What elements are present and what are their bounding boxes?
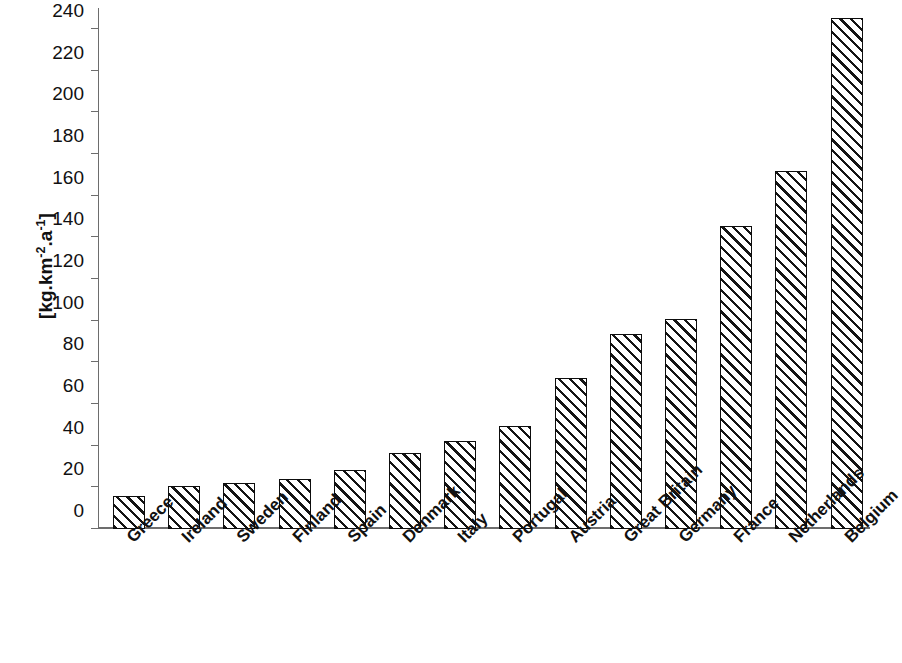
y-tick-label: 200 xyxy=(0,84,84,103)
bar-belgium xyxy=(831,18,863,529)
y-tick-label: 20 xyxy=(0,459,84,478)
plot-area: 020406080100120140160180200220240 xyxy=(98,8,870,529)
y-tick-label: 180 xyxy=(0,126,84,145)
y-tick-label: 0 xyxy=(0,501,84,520)
y-tick-label: 220 xyxy=(0,43,84,62)
y-axis-title-mid: .a xyxy=(35,231,56,247)
y-tick-label: 80 xyxy=(0,334,84,353)
x-axis-labels: GreeceIrelandSwedenFinlandSpainDenmarkIt… xyxy=(98,533,883,663)
bar-netherlands xyxy=(775,171,807,529)
y-tick-label: 100 xyxy=(0,293,84,312)
bar-series xyxy=(98,8,870,529)
y-tick-label: 60 xyxy=(0,376,84,395)
y-tick-label: 240 xyxy=(0,1,84,20)
y-tick-label: 140 xyxy=(0,209,84,228)
y-tick-label: 160 xyxy=(0,168,84,187)
y-tick-label: 120 xyxy=(0,251,84,270)
y-tick-label: 40 xyxy=(0,418,84,437)
